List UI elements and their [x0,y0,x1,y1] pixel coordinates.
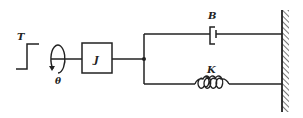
rotational-system-diagram: T θ J B K [0,0,303,118]
spring [144,76,282,88]
damper-label: B [207,10,216,21]
spring-label: K [206,64,217,75]
damper [144,27,282,44]
angle-label: θ [55,76,61,86]
fixed-wall [282,10,289,112]
torque-step-input [16,44,39,69]
torque-label: T [17,31,26,42]
